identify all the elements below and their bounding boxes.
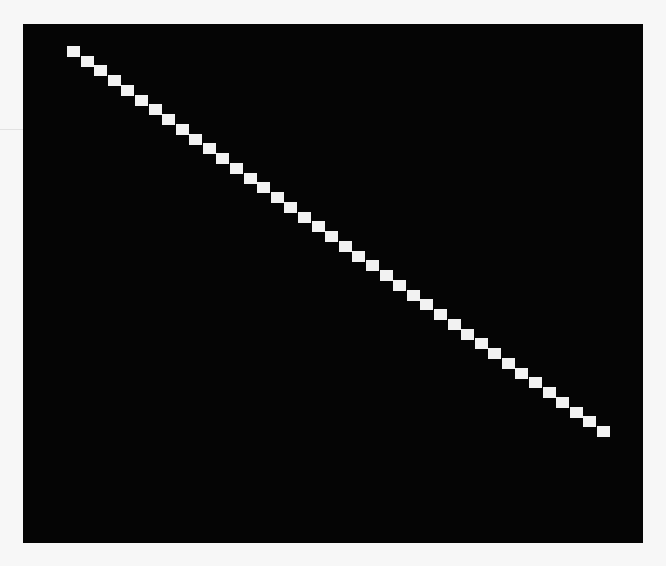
diagonal-block bbox=[543, 387, 556, 398]
diagonal-block bbox=[271, 192, 284, 203]
diagonal-block bbox=[502, 358, 515, 369]
diagonal-block bbox=[94, 65, 107, 76]
diagonal-block bbox=[570, 407, 583, 418]
diagonal-block bbox=[325, 231, 338, 242]
diagonal-block bbox=[176, 124, 189, 135]
diagonal-block bbox=[121, 85, 134, 96]
diagonal-block bbox=[434, 309, 447, 320]
diagonal-block bbox=[298, 212, 311, 223]
black-field bbox=[23, 24, 643, 543]
diagonal-block bbox=[529, 377, 542, 388]
diagonal-block bbox=[203, 143, 216, 154]
diagonal-block bbox=[189, 134, 202, 145]
diagonal-block bbox=[420, 299, 433, 310]
diagonal-block bbox=[475, 338, 488, 349]
diagonal-block bbox=[488, 348, 501, 359]
diagonal-block bbox=[339, 241, 352, 252]
diagonal-block bbox=[393, 280, 406, 291]
diagonal-block bbox=[597, 426, 610, 437]
diagonal-block bbox=[108, 75, 121, 86]
diagonal-block bbox=[244, 173, 257, 184]
diagonal-block bbox=[284, 202, 297, 213]
diagonal-block bbox=[556, 397, 569, 408]
diagonal-block bbox=[216, 153, 229, 164]
diagonal-block bbox=[461, 329, 474, 340]
diagonal-block bbox=[81, 56, 94, 67]
diagonal-block bbox=[149, 104, 162, 115]
diagonal-block bbox=[352, 251, 365, 262]
diagonal-block bbox=[257, 182, 270, 193]
diagonal-block bbox=[230, 163, 243, 174]
diagonal-block bbox=[583, 416, 596, 427]
diagonal-block bbox=[380, 270, 393, 281]
diagonal-block bbox=[312, 221, 325, 232]
diagonal-block bbox=[448, 319, 461, 330]
diagonal-block bbox=[366, 260, 379, 271]
edge-line bbox=[0, 129, 23, 130]
diagonal-block bbox=[135, 95, 148, 106]
diagonal-block bbox=[162, 114, 175, 125]
diagonal-block bbox=[407, 290, 420, 301]
diagonal-block bbox=[67, 46, 80, 57]
diagonal-block bbox=[515, 368, 528, 379]
